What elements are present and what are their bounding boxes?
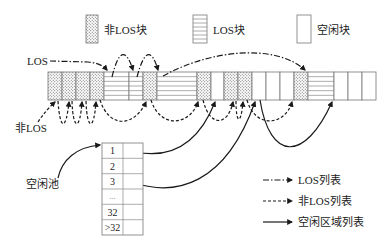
block-rect — [211, 72, 224, 100]
block-rect — [266, 72, 280, 100]
memory-block-bar — [48, 72, 376, 100]
pool-row-label: 3 — [110, 176, 115, 187]
non-los-block-swatch — [86, 15, 98, 43]
block-non-los — [224, 72, 238, 100]
block-non-los — [90, 72, 104, 100]
legend-label: LOS块 — [213, 24, 245, 36]
block-los — [157, 72, 197, 100]
block-non-los — [197, 72, 211, 100]
block-rect — [48, 72, 62, 100]
non-los-list-link — [58, 101, 69, 124]
los-list-link — [50, 61, 107, 70]
free-pool-table: 1 2 3 ... 32 >32 — [102, 143, 143, 235]
legend-item-free-block: 空闲块 — [297, 15, 350, 43]
block-non-los — [62, 72, 76, 100]
non-los-list-link — [100, 100, 146, 121]
los-block-swatch — [193, 15, 207, 43]
block-non-los — [238, 72, 252, 100]
block-non-los — [294, 72, 308, 100]
pool-row-label: >32 — [105, 222, 121, 233]
block-rect — [90, 72, 104, 100]
non-los-list-link — [151, 100, 198, 121]
free-area-list-link — [135, 102, 215, 154]
block-free — [252, 72, 266, 100]
block-los — [308, 72, 334, 100]
block-non-los — [76, 72, 90, 100]
free-area-list-link — [135, 102, 255, 188]
block-rect — [224, 72, 238, 100]
block-los — [104, 72, 129, 100]
legend-label: 非LOS块 — [104, 24, 147, 36]
block-rect — [76, 72, 90, 100]
non-los-list-link — [236, 101, 243, 119]
block-free — [334, 72, 348, 100]
legend-bottom: LOS列表 非LOS列表 空闲区域列表 — [263, 173, 364, 228]
legend-item-los-list: LOS列表 — [263, 173, 341, 186]
block-rect — [334, 72, 348, 100]
legend-item-non-los-list: 非LOS列表 — [263, 194, 352, 207]
block-free — [211, 72, 224, 100]
block-los — [129, 72, 143, 100]
non-los-list-link — [247, 100, 292, 121]
free-area-list-links — [58, 100, 332, 188]
block-rect — [143, 72, 157, 100]
pool-row-label: 2 — [110, 161, 115, 172]
legend-label: LOS列表 — [298, 173, 341, 186]
legend-top: 非LOS块 LOS块 空闲块 — [86, 15, 350, 43]
block-non-los — [48, 72, 62, 100]
block-rect — [294, 72, 308, 100]
non-los-list-link — [86, 101, 96, 124]
block-free — [266, 72, 280, 100]
legend-item-los-block: LOS块 — [193, 15, 245, 43]
block-rect — [252, 72, 266, 100]
block-free — [280, 72, 294, 100]
free-pool-label: 空闲池 — [26, 177, 59, 190]
legend-label: 非LOS列表 — [298, 194, 352, 207]
block-rect — [238, 72, 252, 100]
free-pool-pointer — [58, 145, 100, 178]
legend-item-non-los-block: 非LOS块 — [86, 15, 147, 43]
memory-layout-diagram: 非LOS块 LOS块 空闲块 LOS 非LOS 空闲池 — [0, 0, 384, 245]
block-rect — [348, 72, 362, 100]
block-free — [348, 72, 362, 100]
legend-label: 空闲块 — [317, 23, 350, 36]
block-rect — [62, 72, 76, 100]
block-rect — [362, 72, 376, 100]
pool-row-label: 32 — [108, 207, 118, 218]
pool-row-label: 1 — [110, 145, 115, 156]
non-los-list-link — [72, 101, 82, 124]
non-los-list-link — [38, 102, 55, 122]
non-los-label: 非LOS — [15, 122, 47, 134]
pool-row-label: ... — [110, 192, 116, 201]
legend-item-free-area-list: 空闲区域列表 — [263, 215, 364, 228]
los-label: LOS — [27, 55, 48, 67]
block-rect — [280, 72, 294, 100]
free-block-swatch — [297, 15, 311, 43]
block-non-los — [143, 72, 157, 100]
block-free — [362, 72, 376, 100]
block-rect — [197, 72, 211, 100]
legend-label: 空闲区域列表 — [298, 215, 364, 228]
free-area-list-link — [260, 100, 332, 147]
